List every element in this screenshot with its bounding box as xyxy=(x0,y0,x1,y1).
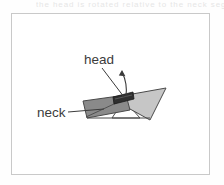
label-head: head xyxy=(84,52,114,67)
figure-page: the head is rotated relative to the neck… xyxy=(0,0,224,185)
label-neck: neck xyxy=(37,105,66,120)
diagram-svg: head neck xyxy=(0,0,224,185)
shape-group xyxy=(83,88,166,120)
figure-canvas: head neck xyxy=(0,0,224,185)
rotation-arrow-head-icon xyxy=(119,70,126,76)
